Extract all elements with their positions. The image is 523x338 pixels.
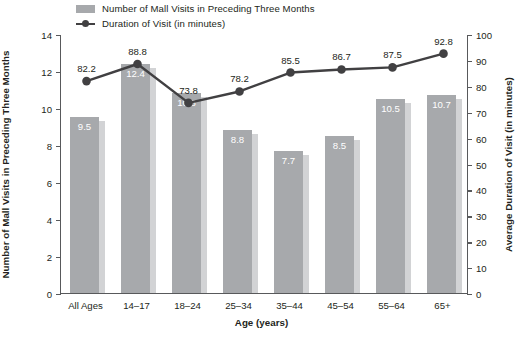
legend-label-line: Duration of Visit (in minutes) [102,18,225,29]
y-axis-right-tick-label: 90 [476,55,487,66]
line-value-label: 88.8 [128,46,147,57]
y-axis-left-tick-label: 6 [47,178,52,189]
y-axis-left-tick-label: 4 [47,215,52,226]
y-axis-left-title: Number of Mall Visits in Preceding Three… [0,35,14,294]
line-value-label: 73.8 [179,85,198,96]
y-axis-left-tick-label: 2 [47,252,52,263]
x-axis-category-label: 35–44 [276,300,303,311]
y-axis-right-tick-label: 80 [476,81,487,92]
y-axis-right-tick-label: 60 [476,133,487,144]
y-axis-right-tick-label: 20 [476,237,487,248]
chart-container: Number of Mall Visits in Preceding Three… [0,0,523,338]
y-axis-left-tick-label: 10 [41,104,52,115]
line-data-point[interactable] [286,68,295,77]
x-axis-category-label: 25–34 [225,300,252,311]
line-data-point[interactable] [184,99,193,108]
y-axis-right-tick-label: 10 [476,263,487,274]
y-axis-left-tick-label: 12 [41,67,52,78]
x-axis-category-label: 45–54 [327,300,354,311]
y-axis-left-tick [56,294,61,295]
line-data-point[interactable] [388,63,397,72]
legend-item-line: Duration of Visit (in minutes) [76,17,315,30]
line-value-label: 86.7 [332,51,351,62]
line-value-label: 85.5 [281,55,300,66]
y-axis-right-tick [467,294,472,295]
chart-legend: Number of Mall Visits in Preceding Three… [76,2,315,32]
line-value-label: 92.8 [434,36,453,47]
line-data-point[interactable] [235,87,244,96]
y-axis-right-tick-label: 100 [476,30,492,41]
line-data-point[interactable] [133,60,142,69]
legend-label-bars: Number of Mall Visits in Preceding Three… [102,3,315,14]
line-value-label: 87.5 [383,49,402,60]
x-axis-title: Age (years) [0,317,523,328]
line-data-point[interactable] [439,49,448,58]
x-axis-category-label: All Ages [68,300,103,311]
plot-inner: 0246810121401020304050607080901009.512.4… [61,35,467,293]
y-axis-right-tick-label: 30 [476,211,487,222]
line-value-label: 78.2 [230,73,249,84]
y-axis-right-tick-label: 40 [476,185,487,196]
line-data-point[interactable] [82,77,91,86]
y-axis-left-tick-label: 8 [47,141,52,152]
x-axis-category-label: 18–24 [174,300,201,311]
x-axis-category-label: 14–17 [123,300,150,311]
line-data-point[interactable] [337,65,346,74]
y-axis-right-tick-label: 0 [476,289,481,300]
x-axis-category-label: 55–64 [378,300,405,311]
line-marker-icon [76,19,95,29]
duration-line-series [61,35,469,294]
line-value-label: 82.2 [77,63,96,74]
y-axis-right-tick-label: 50 [476,159,487,170]
legend-item-bars: Number of Mall Visits in Preceding Three… [76,2,315,15]
plot-area: 0246810121401020304050607080901009.512.4… [60,35,468,294]
y-axis-right-tick-label: 70 [476,107,487,118]
y-axis-left-tick-label: 0 [47,289,52,300]
y-axis-right-title: Average Duration of Visit (in minutes) [500,35,516,294]
bar-swatch-icon [76,5,95,13]
x-axis-category-label: 65+ [434,300,450,311]
y-axis-left-tick-label: 14 [41,30,52,41]
